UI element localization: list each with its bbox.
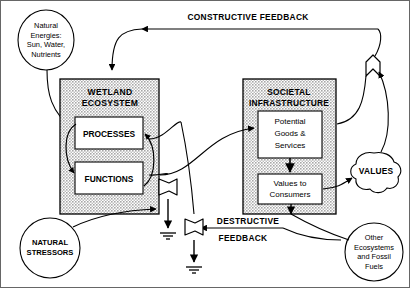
- destructive-feedback-label-line-2: FEEDBACK: [219, 233, 268, 243]
- wetland-ecosystem-box: WETLAND ECOSYSTEM PROCESSES FUNCTIONS: [60, 79, 159, 214]
- potential-goods-line-1: Potential: [274, 117, 305, 126]
- wetland-title-line-1: WETLAND: [87, 87, 132, 97]
- potential-goods-line-2: Goods &: [274, 129, 306, 138]
- functions-label: FUNCTIONS: [85, 174, 134, 184]
- diagram-canvas: Natural Energies: Sun, Water, Nutrients …: [0, 0, 410, 288]
- other-ecosystems-line-2: Ecosystems: [354, 243, 394, 252]
- societal-title-line-2: INFRASTRUCTURE: [249, 98, 329, 108]
- source-other-ecosystems: Other Ecosystems and Fossil Fuels: [345, 223, 403, 281]
- natural-stressors-line-2: STRESSORS: [27, 248, 74, 257]
- natural-energies-line-1: Natural: [34, 21, 58, 30]
- natural-energies-line-3: Sun, Water,: [27, 40, 65, 49]
- natural-energies-line-4: Nutrients: [31, 50, 61, 59]
- values-consumers-line-2: Consumers: [270, 190, 311, 199]
- destructive-feedback-label-line-1: DESTRUCTIVE: [217, 216, 280, 226]
- natural-stressors-line-1: NATURAL: [32, 238, 68, 247]
- constructive-feedback-label: CONSTRUCTIVE FEEDBACK: [187, 12, 308, 22]
- societal-title-line-1: SOCIETAL: [267, 87, 310, 97]
- source-natural-stressors: NATURAL STRESSORS: [20, 218, 80, 278]
- values-consumers-line-1: Values to: [274, 179, 307, 188]
- processes-label: PROCESSES: [83, 129, 136, 139]
- systems-diagram: Natural Energies: Sun, Water, Nutrients …: [0, 0, 410, 288]
- societal-infrastructure-box: SOCIETAL INFRASTRUCTURE Potential Goods …: [243, 79, 336, 214]
- values-label: VALUES: [359, 166, 394, 176]
- natural-energies-line-2: Energies:: [30, 31, 61, 40]
- other-ecosystems-line-4: Fuels: [365, 262, 383, 271]
- other-ecosystems-line-3: and Fossil: [357, 252, 391, 261]
- wetland-title-line-2: ECOSYSTEM: [82, 98, 139, 108]
- potential-goods-line-3: Services: [275, 141, 306, 150]
- source-natural-energies: Natural Energies: Sun, Water, Nutrients: [18, 10, 74, 70]
- other-ecosystems-line-1: Other: [365, 233, 384, 242]
